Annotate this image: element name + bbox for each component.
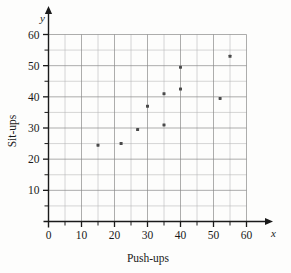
data-point: [136, 128, 139, 131]
y-tick-label: 30: [28, 122, 40, 134]
axis-ticks: [43, 35, 247, 228]
data-point: [120, 142, 123, 145]
data-point: [179, 66, 182, 69]
data-point: [97, 144, 100, 147]
y-tick-label: 50: [28, 60, 40, 72]
x-tick-label: 0: [46, 229, 52, 241]
data-point: [179, 88, 182, 91]
x-axis-arrowhead: [265, 218, 273, 225]
y-tick-label: 60: [28, 29, 40, 41]
x-tick-label: 50: [208, 229, 220, 241]
y-axis-arrowhead: [45, 6, 52, 14]
y-axis-variable-label: y: [39, 12, 45, 24]
x-tick-label: 10: [76, 229, 88, 241]
data-point: [146, 105, 149, 108]
data-point: [163, 123, 166, 126]
x-axis-title: Push-ups: [127, 252, 170, 265]
data-point: [219, 97, 222, 100]
y-tick-label: 10: [28, 184, 40, 196]
x-axis-tick-labels: 0102030405060: [46, 229, 253, 241]
x-tick-label: 30: [142, 229, 154, 241]
axes: [44, 6, 274, 228]
scatter-plot-svg: 0102030405060 102030405060 x y Push-ups …: [0, 0, 291, 273]
data-point: [163, 92, 166, 95]
x-axis-variable-label: x: [270, 227, 276, 239]
y-axis-title: Sit-ups: [6, 114, 19, 147]
x-tick-label: 40: [175, 229, 187, 241]
x-tick-label: 20: [109, 229, 121, 241]
scatter-plot-figure: 0102030405060 102030405060 x y Push-ups …: [0, 0, 291, 273]
x-tick-label: 60: [241, 229, 253, 241]
data-point: [229, 55, 232, 58]
y-tick-label: 20: [28, 153, 40, 165]
major-gridlines: [49, 35, 247, 222]
y-tick-label: 40: [28, 91, 40, 103]
y-axis-tick-labels: 102030405060: [28, 29, 40, 197]
